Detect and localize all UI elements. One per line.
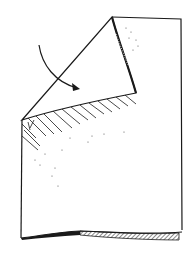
folded-paper-illustration <box>0 0 194 256</box>
folded-corner-flap <box>22 17 139 120</box>
curled-bottom-edge <box>21 231 179 240</box>
